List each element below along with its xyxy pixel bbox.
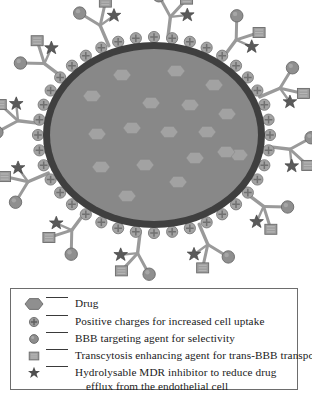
legend-leader-line [46,297,72,298]
positive-charge-circle [130,226,141,237]
drug-hexagon [83,90,101,101]
legend-leader-line [46,366,72,367]
drug-hexagon [169,176,187,187]
bbb-targeting-circle-tip [222,251,234,263]
mdr-inhibitor-star-tip [45,41,59,54]
legend-leader-line [46,332,72,333]
positive-charge-circle [263,114,274,125]
drug-hexagon [123,122,141,133]
legend-item: Positive charges for increased cell upta… [23,315,264,330]
transcytosis-square-tip [0,172,11,182]
transcytosis-square-tip [99,0,111,7]
legend-label: Transcytosis enhancing agent for trans-B… [75,349,312,362]
bbb-targeting-circle-tip [14,57,26,69]
mdr-inhibitor-star-tip [285,159,299,172]
transcytosis-square-tip [43,232,55,242]
transcytosis-square-tip [302,160,312,170]
core-fill [50,49,258,221]
legend-leader-line [46,315,72,316]
legend-item: Drug [23,297,98,312]
transcytosis-square-tip [253,28,265,38]
positive-charge-circle [167,226,178,237]
legend-item: BBB targeting agent for selectivity [23,332,235,347]
drug-hexagon [160,126,178,137]
drug-hexagon [181,99,199,110]
positive-charge-circle [167,33,178,44]
legend-item: Hydrolysable MDR inhibitor to reduce dru… [23,366,276,381]
positive-charge-circle [113,36,124,47]
cross-circle-marker [23,315,45,329]
transcytosis-square-tip [115,266,127,276]
legend-label: Positive charges for increased cell upta… [75,315,264,328]
mdr-inhibitor-star-tip [114,248,128,261]
positive-charge-circle [184,36,195,47]
transcytosis-square-tip [0,100,6,110]
drug-hexagon [217,146,235,157]
drug-hexagon [136,159,154,170]
bbb-targeting-circle-tip [65,248,77,260]
drug-hexagon [205,79,223,90]
star-marker [23,366,45,380]
bbb-targeting-circle-tip [286,62,298,74]
transcytosis-square-tip [197,263,209,273]
mdr-inhibitor-star-tip [245,40,259,53]
positive-charge-circle [130,33,141,44]
legend-label: Hydrolysable MDR inhibitor to reduce dru… [75,366,276,379]
transcytosis-square-tip [297,88,309,98]
bbb-targeting-circle-tip [281,201,293,213]
drug-hexagon [113,69,131,80]
positive-charge-circle [264,129,275,140]
transcytosis-square-tip [31,36,43,46]
mdr-inhibitor-star-tip [250,215,264,228]
transcytosis-square-tip [181,0,193,4]
bbb-targeting-circle-tip [9,196,21,208]
drug-hexagon [218,108,236,119]
legend-continuation-line: efflux from the endothelial cell [86,380,228,393]
drug-hexagon [88,128,106,139]
transcytosis-square-tip [265,224,277,234]
drug-hexagon [167,65,185,76]
drug-hexagon [92,161,110,172]
positive-charge-circle [34,145,45,156]
mdr-inhibitor-star-tip [187,247,201,260]
drug-hexagon [118,190,136,201]
mdr-inhibitor-star-tip [181,8,195,21]
positive-charge-circle [263,145,274,156]
positive-charge-circle [184,223,195,234]
ligand-branch [159,0,171,17]
hexagon-marker [23,297,45,311]
bbb-targeting-circle-tip [74,7,86,19]
bbb-targeting-circle-tip [143,268,155,280]
positive-charge-circle [148,31,159,42]
positive-charge-circle [32,129,43,140]
positive-charge-circle [113,223,124,234]
drug-hexagon [198,126,216,137]
drug-hexagon [142,97,160,108]
positive-charge-circle [148,227,159,238]
drug-hexagon [186,152,204,163]
square-marker [23,349,45,363]
positive-charge-circle [34,114,45,125]
legend-label: Drug [75,297,98,310]
legend-label: BBB targeting agent for selectivity [75,332,235,345]
circle-marker [23,332,45,346]
mdr-inhibitor-star-tip [49,216,63,229]
nanoparticle-core [43,42,265,228]
legend-box: DrugPositive charges for increased cell … [10,288,298,390]
bbb-targeting-circle-tip [231,10,243,22]
legend-item: Transcytosis enhancing agent for trans-B… [23,349,312,364]
mdr-inhibitor-star-tip [11,161,25,174]
legend-leader-line [46,349,72,350]
